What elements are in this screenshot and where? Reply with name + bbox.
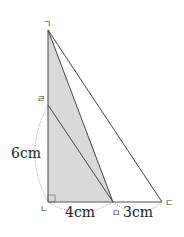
measurement-6cm: 6cm <box>11 145 41 161</box>
label-bottom-left: ㄴ <box>40 204 48 214</box>
geometry-diagram: ㄱ ㄹ ㄴ ㅁ ㄷ 6cm 4cm 3cm <box>0 0 184 237</box>
measurement-4cm: 4cm <box>65 204 95 220</box>
label-bottom-mid: ㅁ <box>112 208 120 218</box>
label-top: ㄱ <box>43 19 51 29</box>
measurement-3cm: 3cm <box>123 204 153 220</box>
label-bottom-right: ㄷ <box>165 198 173 208</box>
label-left-mid: ㄹ <box>37 94 45 104</box>
